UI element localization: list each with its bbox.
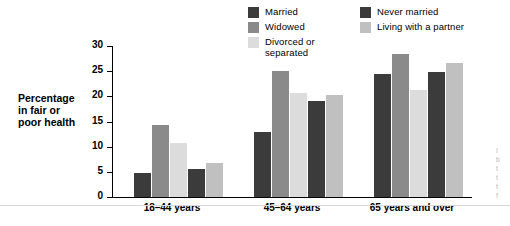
legend-label-living-with-a-partner: Living with a partner (377, 21, 464, 32)
legend-item-never-married: Never married (360, 6, 464, 18)
bar (272, 71, 289, 197)
bar (254, 132, 271, 197)
bottom-divider (0, 205, 510, 206)
bar-series-container (112, 46, 472, 198)
bar (410, 90, 427, 197)
group-label: 18–44 years (112, 202, 232, 213)
bar-chart-plot-area: 051015202530 18–44 years45–64 years65 ye… (112, 46, 472, 198)
bar (152, 125, 169, 197)
bar (446, 63, 463, 197)
y-tick-label: 15 (92, 115, 103, 126)
legend-swatch-living-with-a-partner (360, 22, 371, 33)
bar (290, 93, 307, 197)
y-tick-label: 20 (92, 89, 103, 100)
legend-item-widowed: Widowed (248, 21, 315, 33)
y-tick-label: 5 (97, 165, 103, 176)
y-tick-label: 0 (97, 190, 103, 201)
bar (326, 95, 343, 197)
legend-item-married: Married (248, 6, 315, 18)
legend-item-living-with-a-partner: Living with a partner (360, 21, 464, 33)
bar (170, 143, 187, 197)
y-tick-label: 30 (92, 39, 103, 50)
bar (392, 54, 409, 197)
y-tick-label: 10 (92, 140, 103, 151)
legend-swatch-widowed (248, 22, 259, 33)
bar (188, 169, 205, 197)
bar (308, 101, 325, 197)
bar (134, 173, 151, 197)
legend-label-widowed: Widowed (265, 21, 305, 32)
legend-swatch-married (248, 7, 259, 18)
legend-label-married: Married (265, 6, 298, 17)
legend-column-2: Never married Living with a partner (360, 6, 464, 36)
bar (374, 74, 391, 197)
bar (206, 163, 223, 197)
legend-swatch-never-married (360, 7, 371, 18)
group-label: 65 years and over (352, 202, 472, 213)
bar (428, 72, 445, 197)
group-label: 45–64 years (232, 202, 352, 213)
y-tick-label: 25 (92, 64, 103, 75)
legend-label-never-married: Never married (377, 6, 438, 17)
side-note-text: I b t t t f (496, 146, 510, 200)
